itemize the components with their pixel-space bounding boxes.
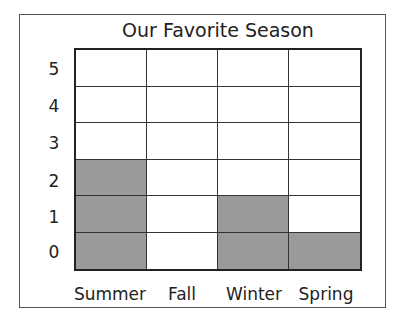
- grid-cell: [147, 50, 218, 87]
- chart-title: Our Favorite Season: [74, 19, 362, 41]
- grid-cell: [76, 50, 147, 87]
- y-tick-label: 3: [44, 133, 64, 153]
- x-category-label: Fall: [142, 284, 222, 304]
- grid-cell: [76, 233, 147, 270]
- grid-cell: [289, 196, 360, 233]
- grid-cell: [147, 123, 218, 160]
- bar-grid: [74, 48, 362, 271]
- y-tick-label: 1: [44, 207, 64, 227]
- grid-cell: [147, 196, 218, 233]
- y-tick-label: 5: [44, 59, 64, 79]
- y-tick-label: 2: [44, 171, 64, 191]
- grid-cell: [218, 160, 289, 197]
- y-tick-label: 0: [44, 242, 64, 262]
- grid-cell: [147, 160, 218, 197]
- y-tick-label: 4: [44, 96, 64, 116]
- grid-cell: [76, 196, 147, 233]
- grid-cell: [76, 87, 147, 124]
- grid-cell: [218, 50, 289, 87]
- grid-cell: [289, 87, 360, 124]
- grid-cell: [218, 196, 289, 233]
- grid-cell: [147, 87, 218, 124]
- grid-cell: [218, 233, 289, 270]
- x-category-label: Winter: [214, 284, 294, 304]
- grid-cell: [289, 123, 360, 160]
- grid-cell: [218, 123, 289, 160]
- grid-cell: [147, 233, 218, 270]
- x-category-label: Summer: [70, 284, 150, 304]
- x-category-label: Spring: [286, 284, 366, 304]
- grid-cell: [76, 160, 147, 197]
- grid-cell: [218, 87, 289, 124]
- grid-cell: [289, 233, 360, 270]
- grid-cell: [289, 160, 360, 197]
- grid-cell: [76, 123, 147, 160]
- grid-cell: [289, 50, 360, 87]
